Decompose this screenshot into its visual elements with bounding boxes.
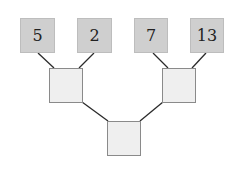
leaf-node-3: 7 <box>134 18 168 53</box>
root-node <box>107 121 141 156</box>
leaf-value: 13 <box>197 26 217 45</box>
leaf-node-2: 2 <box>77 18 112 53</box>
leaf-node-4: 13 <box>190 18 224 53</box>
leaf-node-1: 5 <box>20 18 55 53</box>
leaf-value: 2 <box>89 26 99 45</box>
leaf-value: 7 <box>146 26 156 45</box>
internal-node-left <box>49 68 83 103</box>
internal-node-right <box>162 68 196 103</box>
leaf-value: 5 <box>32 26 42 45</box>
